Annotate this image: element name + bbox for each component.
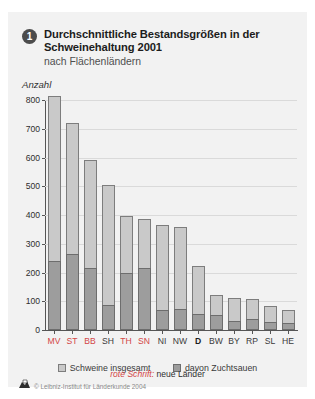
y-axis-tick-label: 100 xyxy=(26,296,40,306)
x-axis-tick-mark xyxy=(270,330,271,334)
chart-card: 1 Durchschnittliche Bestandsgrößen in de… xyxy=(8,12,307,387)
bar-sows xyxy=(66,254,79,330)
y-axis-tick-mark xyxy=(42,100,45,101)
bar-group xyxy=(48,100,61,330)
y-axis-tick-mark xyxy=(42,186,45,187)
x-axis-tick-mark xyxy=(198,330,199,334)
title-block: Durchschnittliche Bestandsgrößen in der … xyxy=(44,28,294,68)
x-axis-tick-mark xyxy=(126,330,127,334)
x-axis-label-sn: SN xyxy=(138,336,150,346)
bar-sows xyxy=(210,315,223,330)
x-axis-tick-mark xyxy=(72,330,73,334)
figure-number-badge: 1 xyxy=(22,29,37,44)
bar-group xyxy=(66,100,79,330)
x-axis-tick-mark xyxy=(144,330,145,334)
bar-sows xyxy=(282,323,295,330)
plot-area: 0100200300400500600700800 MVSTBBSHTHSNNI… xyxy=(45,100,297,330)
x-axis-tick-mark xyxy=(216,330,217,334)
y-axis-tick-mark xyxy=(42,273,45,274)
x-axis-tick-mark xyxy=(162,330,163,334)
bar-group xyxy=(192,100,205,330)
legend-note-black: neue Länder xyxy=(157,369,205,379)
page-title-line-1: Durchschnittliche Bestandsgrößen in der xyxy=(44,28,294,41)
bar-sows xyxy=(102,305,115,330)
bar-sows xyxy=(246,319,259,330)
x-axis-tick-mark xyxy=(54,330,55,334)
y-axis-tick-mark xyxy=(42,158,45,159)
y-axis-tick-mark xyxy=(42,215,45,216)
bar-group xyxy=(156,100,169,330)
bar-group xyxy=(210,100,223,330)
bar-group xyxy=(102,100,115,330)
bar-sows xyxy=(228,321,241,330)
x-axis-label-ni: NI xyxy=(158,336,167,346)
x-axis-label-mv: MV xyxy=(48,336,61,346)
bar-sows xyxy=(48,261,61,330)
x-axis-label-he: HE xyxy=(282,336,294,346)
ifl-logo-icon xyxy=(18,376,31,387)
bar-group xyxy=(120,100,133,330)
bar-sows xyxy=(264,322,277,330)
bar-group xyxy=(138,100,151,330)
y-axis-tick-mark xyxy=(42,129,45,130)
y-axis-tick-mark xyxy=(42,330,45,331)
y-axis-tick-label: 300 xyxy=(26,239,40,249)
bar-group xyxy=(282,100,295,330)
x-axis-tick-mark xyxy=(180,330,181,334)
x-axis-line xyxy=(45,330,298,331)
y-axis-tick-label: 0 xyxy=(35,325,40,335)
x-axis-tick-mark xyxy=(90,330,91,334)
x-axis-label-st: ST xyxy=(67,336,78,346)
bar-sows xyxy=(84,268,97,330)
x-axis-label-by: BY xyxy=(228,336,239,346)
bar-group xyxy=(228,100,241,330)
x-axis-label-sl: SL xyxy=(265,336,276,346)
x-axis-label-nw: NW xyxy=(173,336,187,346)
y-axis-tick-label: 500 xyxy=(26,181,40,191)
y-axis-tick-label: 200 xyxy=(26,268,40,278)
bar-sows xyxy=(138,268,151,330)
chart-header: 1 Durchschnittliche Bestandsgrößen in de… xyxy=(22,28,294,68)
x-axis-tick-mark xyxy=(108,330,109,334)
y-axis-tick-mark xyxy=(42,244,45,245)
bar-sows xyxy=(192,314,205,330)
bar-sows xyxy=(120,273,133,331)
bar-group xyxy=(264,100,277,330)
x-axis-tick-mark xyxy=(252,330,253,334)
y-axis-tick-label: 600 xyxy=(26,153,40,163)
x-axis-tick-mark xyxy=(234,330,235,334)
y-axis-tick-label: 800 xyxy=(26,95,40,105)
legend-note: rote Schrift: neue Länder xyxy=(8,369,307,379)
page-subtitle: nach Flächenländern xyxy=(44,55,294,68)
bar-group xyxy=(84,100,97,330)
x-axis-label-bb: BB xyxy=(84,336,95,346)
x-axis-label-th: TH xyxy=(120,336,131,346)
y-axis-tick-label: 700 xyxy=(26,124,40,134)
legend-note-red: rote Schrift: xyxy=(110,369,154,379)
bar-sows xyxy=(174,309,187,330)
y-axis-unit-label: Anzahl xyxy=(22,79,51,90)
copyright-text: © Leibniz-Institut für Länderkunde 2004 xyxy=(34,383,146,390)
bar-group xyxy=(246,100,259,330)
y-axis-tick-mark xyxy=(42,301,45,302)
bar-sows xyxy=(156,310,169,330)
y-axis-tick-label: 400 xyxy=(26,210,40,220)
bar-group xyxy=(174,100,187,330)
page-title-line-2: Schweinehaltung 2001 xyxy=(44,41,294,54)
x-axis-tick-mark xyxy=(288,330,289,334)
x-axis-label-bw: BW xyxy=(209,336,223,346)
x-axis-label-sh: SH xyxy=(102,336,114,346)
x-axis-label-rp: RP xyxy=(246,336,258,346)
x-axis-label-d: D xyxy=(195,336,201,346)
